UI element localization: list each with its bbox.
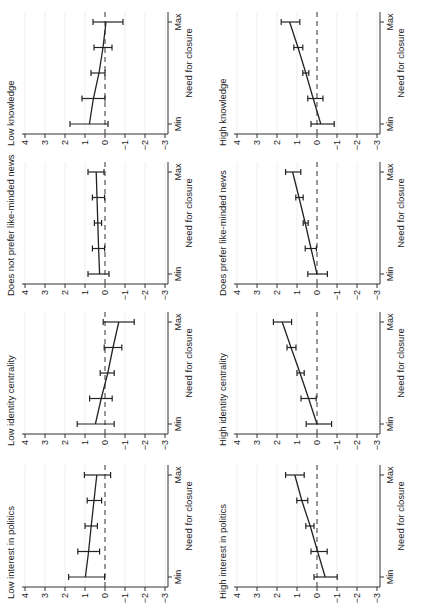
- y-tick-label: 1: [80, 593, 90, 598]
- marginal-effect-line: [293, 172, 317, 274]
- y-tick-label: −1: [332, 440, 342, 450]
- x-tick-label: Min: [173, 117, 183, 132]
- y-tick-label: 0: [100, 140, 110, 145]
- y-tick-label: 4: [20, 440, 30, 445]
- x-tick-label: Max: [173, 13, 183, 31]
- x-axis-label: Need for closure: [183, 28, 194, 98]
- y-tick-label: 1: [80, 140, 90, 145]
- y-tick-label: −2: [352, 593, 362, 603]
- x-tick-label: Max: [385, 163, 395, 181]
- x-tick-label: Min: [385, 117, 395, 132]
- marginal-effect-line: [282, 322, 317, 424]
- y-tick-label: 4: [232, 290, 242, 295]
- marginal-effect-line: [295, 475, 325, 577]
- y-tick-label: 3: [252, 290, 262, 295]
- y-tick-label: 1: [80, 290, 90, 295]
- y-tick-label: 0: [100, 290, 110, 295]
- y-tick-label: 2: [272, 440, 282, 445]
- x-tick-label: Min: [173, 570, 183, 585]
- chart-panel: Low identity centrality−3−2−101234MinMax…: [5, 312, 194, 450]
- x-tick-label: Min: [173, 417, 183, 432]
- y-tick-label: −2: [352, 440, 362, 450]
- y-tick-label: −1: [120, 593, 130, 603]
- figure-container: Low knowledge−3−2−101234MinMaxNeed for c…: [0, 0, 425, 605]
- x-tick-label: Max: [173, 466, 183, 484]
- panel-title: Does not prefer like-minded news: [5, 154, 16, 296]
- y-tick-label: −2: [352, 290, 362, 300]
- y-tick-label: 4: [20, 290, 30, 295]
- y-tick-label: 4: [232, 140, 242, 145]
- y-tick-label: −3: [372, 140, 382, 150]
- chart-panel: Does prefer like-minded news−3−2−101234M…: [217, 162, 406, 300]
- chart-panel: Low interest in politics−3−2−101234MinMa…: [5, 465, 194, 603]
- x-tick-label: Max: [385, 466, 395, 484]
- y-tick-label: −3: [372, 440, 382, 450]
- y-tick-label: −1: [120, 440, 130, 450]
- y-tick-label: 3: [252, 440, 262, 445]
- y-tick-label: −2: [140, 290, 150, 300]
- y-tick-label: 1: [292, 140, 302, 145]
- y-tick-label: 2: [272, 290, 282, 295]
- y-tick-label: 0: [312, 290, 322, 295]
- y-tick-label: 2: [60, 440, 70, 445]
- y-tick-label: −1: [332, 593, 342, 603]
- y-tick-label: 3: [252, 140, 262, 145]
- x-axis-label: Need for closure: [183, 178, 194, 248]
- x-axis-label: Need for closure: [395, 328, 406, 398]
- chart-panel: Low knowledge−3−2−101234MinMaxNeed for c…: [5, 12, 194, 150]
- y-tick-label: 2: [60, 290, 70, 295]
- x-tick-label: Min: [173, 267, 183, 282]
- y-tick-label: 0: [312, 440, 322, 445]
- y-tick-label: 1: [292, 290, 302, 295]
- marginal-effect-line: [290, 22, 321, 124]
- x-axis-label: Need for closure: [395, 178, 406, 248]
- panel-title: Low knowledge: [5, 81, 16, 147]
- y-tick-label: 0: [100, 593, 110, 598]
- chart-panel: High identity centrality−3−2−101234MinMa…: [217, 312, 406, 450]
- y-tick-label: 2: [272, 593, 282, 598]
- chart-panel: High knowledge−3−2−101234MinMaxNeed for …: [217, 12, 406, 150]
- y-tick-label: 3: [40, 440, 50, 445]
- panel-title: High knowledge: [217, 78, 228, 146]
- x-tick-label: Min: [385, 417, 395, 432]
- chart-panel: High interest in politics−3−2−101234MinM…: [217, 465, 406, 603]
- multi-panel-chart: Low knowledge−3−2−101234MinMaxNeed for c…: [0, 0, 425, 605]
- y-tick-label: −3: [160, 290, 170, 300]
- x-axis-label: Need for closure: [183, 481, 194, 551]
- x-tick-label: Max: [173, 163, 183, 181]
- y-tick-label: 3: [40, 290, 50, 295]
- chart-panel: Does not prefer like-minded news−3−2−101…: [5, 154, 194, 300]
- panel-title: High identity centrality: [217, 353, 228, 446]
- x-tick-label: Min: [385, 267, 395, 282]
- y-tick-label: 4: [232, 593, 242, 598]
- y-tick-label: −3: [372, 593, 382, 603]
- x-axis-label: Need for closure: [395, 481, 406, 551]
- y-tick-label: −3: [160, 593, 170, 603]
- x-tick-label: Max: [385, 13, 395, 31]
- panel-title: Does prefer like-minded news: [217, 170, 228, 296]
- y-tick-label: −1: [332, 140, 342, 150]
- x-axis-label: Need for closure: [395, 28, 406, 98]
- y-tick-label: 1: [292, 593, 302, 598]
- y-tick-label: −3: [160, 440, 170, 450]
- y-tick-label: −2: [352, 140, 362, 150]
- y-tick-label: −1: [332, 290, 342, 300]
- x-axis-label: Need for closure: [183, 328, 194, 398]
- y-tick-label: 0: [100, 440, 110, 445]
- y-tick-label: −3: [372, 290, 382, 300]
- x-tick-label: Min: [385, 570, 395, 585]
- y-tick-label: 4: [20, 140, 30, 145]
- y-tick-label: −3: [160, 140, 170, 150]
- y-tick-label: −2: [140, 593, 150, 603]
- panel-title: High interest in politics: [217, 504, 228, 599]
- y-tick-label: −1: [120, 290, 130, 300]
- y-tick-label: 4: [232, 440, 242, 445]
- y-tick-label: −2: [140, 140, 150, 150]
- y-tick-label: 2: [60, 593, 70, 598]
- x-tick-label: Max: [173, 313, 183, 331]
- panel-title: Low identity centrality: [5, 355, 16, 446]
- panel-title: Low interest in politics: [5, 506, 16, 599]
- y-tick-label: 3: [252, 593, 262, 598]
- y-tick-label: 0: [312, 593, 322, 598]
- y-tick-label: 2: [272, 140, 282, 145]
